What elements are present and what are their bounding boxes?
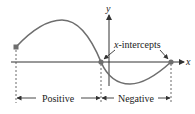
x-intercepts-label: x-intercepts	[113, 39, 161, 50]
y-axis-label: y	[105, 3, 111, 14]
sign-diagram: x y x-intercepts Positive Negative	[0, 0, 195, 114]
x-intercept-dot-left	[98, 59, 103, 64]
x-axis-label: x	[185, 56, 191, 67]
x-intercept-dot-right	[168, 59, 173, 64]
positive-region-label: Positive	[42, 93, 75, 104]
function-curve	[16, 20, 171, 84]
annotation-arrow-right	[160, 50, 168, 59]
negative-region-label: Negative	[118, 93, 155, 104]
left-endpoint-dot	[14, 45, 19, 50]
